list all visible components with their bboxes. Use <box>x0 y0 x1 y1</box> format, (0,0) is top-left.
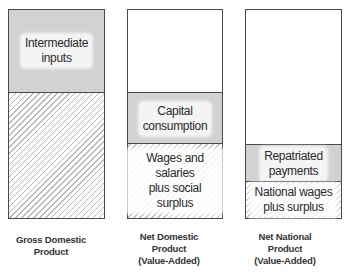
ndp-bar: Capital consumption Wages and salaries p… <box>127 9 223 219</box>
caption-line: Net Domestic <box>124 231 214 243</box>
segment-label: National wages plus surplus <box>252 184 336 216</box>
segment-label: Wages and salaries plus social surplus <box>128 150 222 212</box>
segment-label-line: surplus <box>131 196 219 211</box>
segment-label: Capital consumption <box>140 103 211 135</box>
caption-line: Product <box>240 243 330 255</box>
segment-label-line: Intermediate <box>25 36 88 51</box>
caption-line: Product <box>124 243 214 255</box>
nnp-blank-segment <box>246 10 341 144</box>
segment-label: Repatriated payments <box>261 148 326 180</box>
segment-label-line: consumption <box>143 119 208 134</box>
segment-label-line: payments <box>264 164 323 179</box>
segment-label-line: plus social <box>131 181 219 196</box>
ndp-caption: Net Domestic Product (Value-Added) <box>124 231 214 267</box>
caption-line: (Value-Added) <box>124 255 214 267</box>
segment-label-line: Repatriated <box>264 149 323 164</box>
segment-label-line: National wages <box>255 185 333 200</box>
gdp-caption: Gross Domestic Product <box>6 234 96 258</box>
ndp-blank-segment <box>128 10 222 92</box>
gdp-bar: Intermediate inputs <box>8 9 105 219</box>
nnp-caption: Net National Product (Value-Added) <box>240 231 330 267</box>
caption-line: (Value-Added) <box>240 255 330 267</box>
ndp-capital-consumption-segment: Capital consumption <box>128 92 222 144</box>
segment-label: Intermediate inputs <box>22 35 91 67</box>
nnp-bar: Repatriated payments National wages plus… <box>245 9 342 219</box>
ndp-wages-salaries-segment: Wages and salaries plus social surplus <box>128 143 222 218</box>
segment-label-line: Capital <box>143 104 208 119</box>
caption-line: Gross Domestic <box>6 234 96 246</box>
segment-label-line: inputs <box>25 51 88 66</box>
segment-label-line: Wages and salaries <box>131 151 219 181</box>
gdp-intermediate-inputs-segment: Intermediate inputs <box>9 10 104 92</box>
caption-line: Product <box>6 246 96 258</box>
nnp-national-wages-segment: National wages plus surplus <box>246 181 341 218</box>
nnp-repatriated-payments-segment: Repatriated payments <box>246 144 341 182</box>
gdp-value-added-segment <box>9 92 104 218</box>
segment-label-line: plus surplus <box>255 200 333 215</box>
caption-line: Net National <box>240 231 330 243</box>
